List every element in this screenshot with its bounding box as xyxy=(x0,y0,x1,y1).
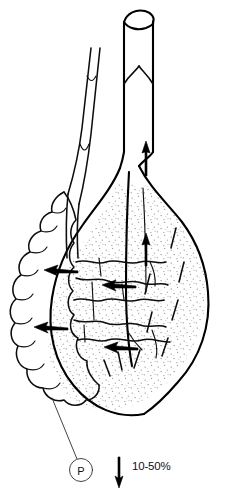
neck-taper-left xyxy=(120,152,124,168)
legend-group: 10-50% xyxy=(115,457,170,488)
legend-value-label: 10-50% xyxy=(132,460,170,472)
organ-crease-7 xyxy=(18,341,35,347)
legend-down-arrow-icon xyxy=(115,457,123,488)
organ-crease-1 xyxy=(52,208,66,213)
organ-crease-6 xyxy=(15,318,32,324)
organ-crease-8 xyxy=(27,364,44,370)
organ-crease-3 xyxy=(30,247,47,253)
organ-crease-2 xyxy=(41,226,57,232)
tube-rim-back xyxy=(124,10,154,22)
marker-p-group[interactable]: P xyxy=(52,398,93,482)
marker-p-label: P xyxy=(77,465,84,477)
anatomical-figure: P 10-50% xyxy=(0,0,235,494)
marker-p-leader-line xyxy=(52,398,77,459)
tube-interior xyxy=(124,22,153,150)
ureter-wall-outer xyxy=(68,48,91,194)
organ-crease-4 xyxy=(21,270,38,276)
ureter-valve-notch-lower xyxy=(80,144,89,150)
diagram-canvas: P 10-50% xyxy=(0,0,235,494)
organ-crease-9 xyxy=(43,383,60,389)
outflow-tube-group xyxy=(120,10,154,168)
organ-crease-5 xyxy=(16,294,33,300)
